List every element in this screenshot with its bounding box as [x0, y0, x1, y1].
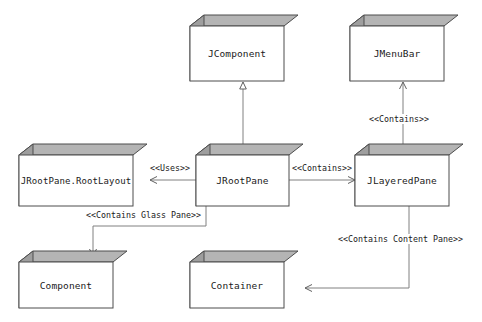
- edge-contains-content-pane: [305, 198, 409, 288]
- node-box-container[interactable]: [190, 251, 298, 308]
- node-box-jrootpane-rootlayout[interactable]: [19, 144, 147, 206]
- diagram-canvas: [0, 0, 482, 322]
- node-layer: [19, 15, 463, 308]
- node-box-jcomponent[interactable]: [190, 15, 298, 81]
- node-box-component[interactable]: [19, 251, 127, 308]
- node-box-jrootpane[interactable]: [196, 144, 303, 206]
- edge-contains-glass-pane: [93, 198, 206, 256]
- node-box-jlayeredpane[interactable]: [355, 144, 463, 206]
- uml-class-diagram: JComponent JMenuBar JRootPane.RootLayout…: [0, 0, 482, 322]
- node-box-jmenubar[interactable]: [350, 15, 458, 81]
